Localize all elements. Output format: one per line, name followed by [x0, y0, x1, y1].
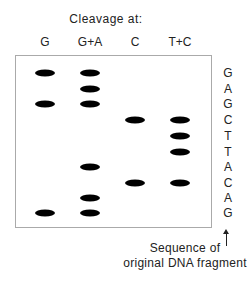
sequence-base: G	[222, 206, 234, 220]
gel-band	[35, 101, 55, 108]
gel-band	[80, 86, 100, 93]
gel-band	[35, 210, 55, 217]
lane-label: T+C	[160, 35, 200, 49]
gel-band	[80, 164, 100, 171]
gel-band	[170, 149, 190, 156]
gel-band	[35, 70, 55, 77]
sequence-base: G	[222, 97, 234, 111]
caption-line-2: original DNA fragment	[120, 256, 250, 271]
sequence-base: C	[222, 113, 234, 127]
gel-band	[125, 180, 145, 187]
gel-band	[80, 101, 100, 108]
sequence-base: T	[222, 129, 234, 143]
gel-band	[80, 210, 100, 217]
sequence-base: G	[222, 66, 234, 80]
lane-label: C	[115, 35, 155, 49]
gel-band	[170, 180, 190, 187]
gel-box	[15, 55, 212, 228]
gel-band	[125, 117, 145, 124]
sequence-caption: Sequence of original DNA fragment	[120, 241, 250, 271]
sequence-base: C	[222, 176, 234, 190]
caption-line-1: Sequence of	[120, 241, 250, 256]
gel-band	[80, 70, 100, 77]
lane-label: G	[25, 35, 65, 49]
sequence-base: A	[222, 160, 234, 174]
gel-band	[170, 117, 190, 124]
sequence-base: A	[222, 191, 234, 205]
gel-band	[170, 133, 190, 140]
gel-band	[80, 195, 100, 202]
lane-label: G+A	[70, 35, 110, 49]
sequence-base: A	[222, 82, 234, 96]
diagram-title: Cleavage at:	[0, 12, 212, 26]
sequence-base: T	[222, 145, 234, 159]
